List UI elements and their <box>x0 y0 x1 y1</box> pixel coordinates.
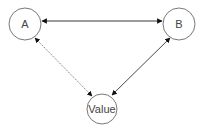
edge-a-value <box>35 38 92 96</box>
node-a-label: A <box>21 18 29 30</box>
edge-b-value <box>112 38 170 95</box>
node-a: A <box>9 8 41 40</box>
diagram-canvas: A B Value <box>0 0 205 128</box>
node-b-label: B <box>175 18 182 30</box>
node-value-label: Value <box>88 103 115 115</box>
node-b: B <box>163 8 195 40</box>
node-value: Value <box>87 94 117 124</box>
